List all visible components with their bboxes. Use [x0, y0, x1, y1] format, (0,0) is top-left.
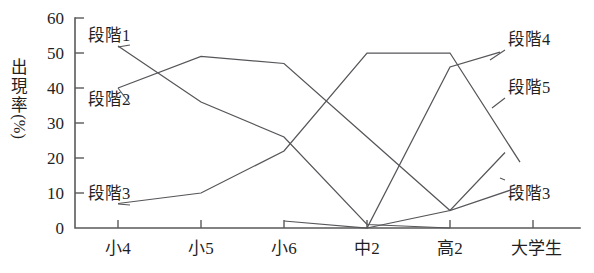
series-line-段階3	[118, 53, 520, 204]
series-line-段階5	[367, 153, 505, 229]
series-line-段階1	[118, 46, 450, 228]
leader-stage2-left	[118, 88, 130, 104]
chart-container: 出 現 率 (%) 60 50 40 30 20 10 0 小4 小5 小6 中…	[0, 0, 594, 273]
leader-stage3-left	[118, 204, 130, 205]
leader-stage1-left	[118, 45, 130, 47]
axis-frame	[75, 18, 580, 228]
leader-stage3-right	[500, 178, 505, 180]
series-line-段階4	[284, 52, 500, 228]
leader-stage5-right	[492, 98, 505, 108]
annotation-leaders	[118, 45, 505, 205]
y-axis-ticks	[75, 18, 84, 193]
chart-plot-area	[0, 0, 594, 273]
series-line-段階2	[118, 57, 520, 211]
series-layer	[118, 46, 520, 228]
